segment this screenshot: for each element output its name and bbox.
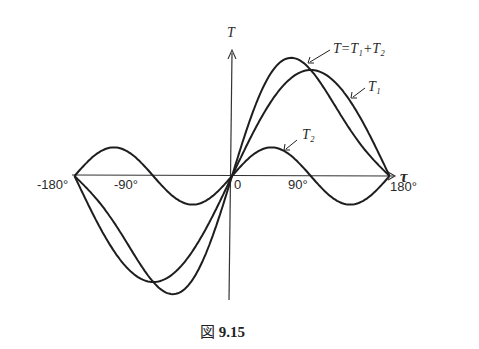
tick-label-neg180: -180° — [37, 178, 68, 191]
annotation-t2: T₂ — [302, 128, 315, 142]
leader-sum — [310, 50, 330, 62]
caption-prefix: 図 — [200, 324, 215, 340]
leader-t1 — [353, 88, 365, 97]
tick-label-pos180: 180° — [390, 180, 417, 193]
caption-number: 9.15 — [219, 324, 245, 340]
tick-label-neg90: -90° — [114, 178, 138, 191]
figure-caption: 図 9.15 — [200, 320, 245, 341]
annotation-t1: T₁ — [368, 80, 381, 94]
tick-label-zero: 0 — [234, 178, 241, 191]
leader-t2 — [286, 140, 297, 149]
annotation-sum: T=T₁+T₂ — [333, 42, 385, 56]
tick-label-pos90: 90° — [288, 178, 308, 191]
y-axis-label: T — [227, 26, 235, 40]
